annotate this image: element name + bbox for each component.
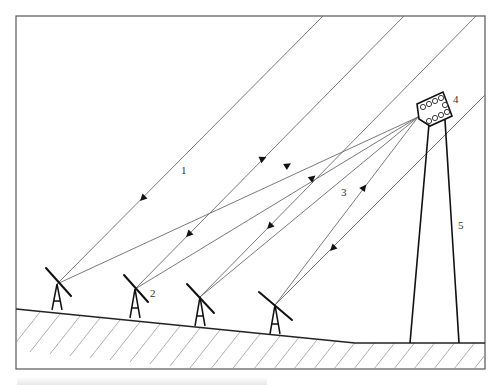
reflected-rays [57,117,418,305]
arrow-up-icon [283,160,293,170]
heliostat-4 [259,292,292,334]
solar-tower-diagram: 1 2 3 4 5 [0,0,499,385]
arrow-down-icon [328,244,338,254]
label-tower: 5 [458,219,464,231]
incident-ray-2 [135,16,404,289]
label-reflected-ray: 3 [341,186,347,198]
label-receiver: 4 [453,93,459,105]
heliostat-3 [187,284,214,326]
incident-rays [57,16,499,305]
arrow-up-icon [308,173,318,183]
incident-ray-1 [57,16,323,284]
mirror [259,292,292,320]
incident-ray-3 [200,16,476,297]
heliostat-2 [124,275,148,318]
incident-ray-4 [275,80,499,305]
label-incident-ray: 1 [181,164,187,176]
figure-caption [17,377,267,385]
receiver [417,92,452,126]
tower [410,120,459,343]
arrow-down-icon [138,194,148,204]
label-heliostat: 2 [150,287,156,299]
ground-line [16,309,485,343]
